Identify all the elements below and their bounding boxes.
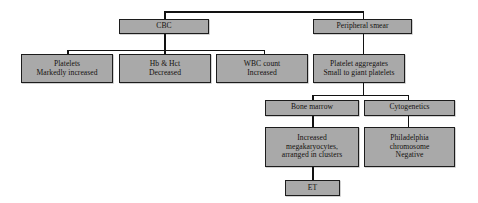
node-philadelphia[interactable]: Philadelphia chromosome Negative: [364, 127, 455, 167]
connector-cytogenetics-to-philadelphia: [408, 116, 410, 127]
connector-level3-bus: [312, 95, 409, 97]
node-philadelphia-line-2: Negative: [396, 151, 424, 160]
node-platelet-aggregates[interactable]: Platelet aggregates Small to giant plate…: [313, 54, 405, 83]
connector-bone-marrow-to-megakaryocytes: [312, 116, 314, 127]
node-cbc[interactable]: CBC: [119, 19, 209, 34]
node-peripheral-smear[interactable]: Peripheral smear: [313, 19, 412, 34]
node-hb-hct[interactable]: Hb & Hct Decreased: [119, 54, 211, 83]
connector-root-bus: [164, 11, 364, 13]
connector-megakaryocytes-to-et: [312, 167, 314, 180]
flowchart-canvas: CBC Peripheral smear Platelets Markedly …: [0, 0, 478, 203]
node-et-line-0: ET: [308, 184, 317, 193]
connector-peripheral-smear-to-platelet-aggregates: [363, 33, 365, 54]
node-bone-marrow-line-0: Bone marrow: [291, 103, 333, 112]
node-et[interactable]: ET: [285, 180, 340, 196]
node-megakaryocytes[interactable]: Increased megakaryocytes, arranged in cl…: [265, 127, 359, 167]
node-cytogenetics-line-0: Cytogenetics: [389, 103, 429, 112]
node-platelets-line-1: Markedly increased: [37, 69, 98, 78]
node-cytogenetics[interactable]: Cytogenetics: [364, 100, 455, 117]
node-bone-marrow[interactable]: Bone marrow: [265, 100, 359, 117]
node-wbc-count-line-1: Increased: [247, 69, 277, 78]
connector-cbc-bus: [67, 50, 265, 52]
node-peripheral-smear-line-0: Peripheral smear: [336, 22, 388, 31]
node-megakaryocytes-line-2: arranged in clusters: [282, 151, 342, 160]
node-platelet-aggregates-line-1: Small to giant platelets: [323, 69, 394, 78]
node-platelets[interactable]: Platelets Markedly increased: [21, 54, 113, 83]
connector-platelet-aggregates-stem: [363, 83, 365, 95]
node-hb-hct-line-1: Decreased: [149, 69, 181, 78]
node-cbc-line-0: CBC: [156, 22, 171, 31]
node-wbc-count[interactable]: WBC count Increased: [216, 54, 308, 83]
connector-cbc-stem: [164, 33, 166, 50]
